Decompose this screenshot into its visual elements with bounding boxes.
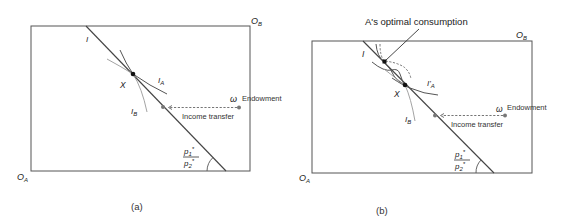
svg-text:p1*: p1* [454, 149, 466, 160]
panel-b: I A's optimal consumption X I'A IB ω End… [299, 16, 548, 216]
endowment-symbol-a: ω [230, 94, 237, 104]
budget-line-a [86, 26, 226, 171]
endowment-point-a [237, 106, 241, 110]
panel-a: I X IA IB ω Endowment Income transfer p1… [17, 16, 283, 212]
origin-b-label-a: OB [251, 16, 262, 27]
endowment-symbol-b: ω [496, 104, 503, 114]
price-ratio-a: p1* p2* [183, 146, 199, 169]
origin-a-label-b: OA [299, 173, 310, 184]
indifference-curve-a [120, 50, 167, 94]
caption-a: (a) [131, 201, 143, 212]
budget-line-label-a: I [86, 35, 89, 44]
optimal-consumption-point [383, 60, 387, 64]
annotation-pointer-line [385, 29, 419, 61]
indifference-b-label-b: IB [405, 115, 411, 125]
indifference-curve-b [107, 59, 147, 112]
income-transfer-label-b: Income transfer [451, 120, 504, 129]
equilibrium-label-a: X [119, 80, 126, 90]
equilibrium-point-b [403, 83, 408, 88]
endowment-label-a: Endowment [242, 94, 283, 103]
svg-text:p1*: p1* [183, 146, 195, 157]
edgeworth-box-figure: I X IA IB ω Endowment Income transfer p1… [0, 0, 566, 224]
indifference-b-label-a: IB [131, 107, 137, 117]
svg-text:p2*: p2* [183, 158, 195, 169]
optimal-consumption-annotation: A's optimal consumption [365, 16, 468, 27]
caption-b: (b) [376, 205, 388, 216]
svg-text:p2*: p2* [454, 161, 466, 172]
arrowhead-icon [441, 114, 445, 118]
equilibrium-label-b: X [393, 89, 400, 99]
endowment-label-b: Endowment [507, 103, 548, 112]
budget-line-label-b: I [362, 49, 365, 59]
angle-arc-a [207, 158, 213, 172]
equilibrium-point-a [131, 72, 136, 77]
origin-a-label-a: OA [17, 172, 28, 183]
endowment-point-b [503, 114, 507, 118]
transfer-point-a [161, 105, 165, 109]
edgeworth-box-a [31, 26, 250, 171]
origin-b-label-b: OB [516, 30, 527, 41]
price-ratio-b: p1* p2* [454, 149, 470, 172]
indifference-a-label-b: I'A [427, 79, 435, 89]
income-transfer-label-a: Income transfer [182, 112, 235, 121]
angle-arc-b [476, 160, 481, 173]
indifference-a-label-a: IA [158, 76, 164, 86]
transfer-point-b [433, 114, 437, 118]
